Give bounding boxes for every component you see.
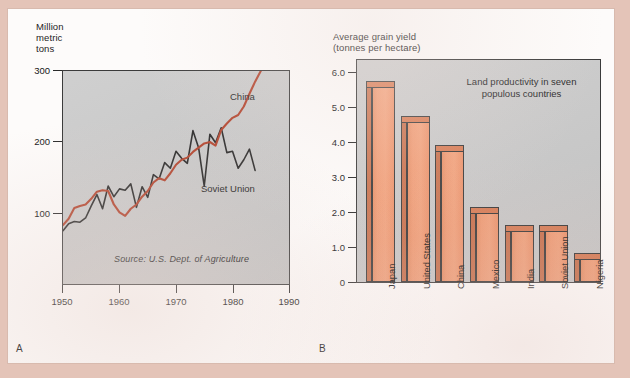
- panel-a-xtick-1950: 1950: [42, 296, 82, 307]
- panel-a-xtick-mark: [176, 285, 177, 293]
- panel-a-xtick-1970: 1970: [156, 296, 196, 307]
- panel-b-ytick-5: 5.0: [315, 102, 345, 113]
- category-label-mexico: Mexico: [491, 260, 501, 289]
- panel-b-letter: B: [319, 343, 326, 354]
- panel-a-ytick-200: 200: [16, 136, 50, 147]
- panel-a-ytick-mark: [53, 70, 62, 71]
- series-label-soviet-union: Soviet Union: [201, 183, 255, 194]
- panel-a-xtick-1990: 1990: [269, 296, 309, 307]
- category-label-china: China: [456, 265, 466, 289]
- panel-b-ytick-mark: [348, 107, 356, 108]
- panel-a-ytick-100: 100: [16, 208, 50, 219]
- panel-b-ytick-2: 2.0: [315, 207, 345, 218]
- panel-b-ytick-mark: [348, 72, 356, 73]
- panel-a-xtick-mark: [62, 285, 63, 293]
- panel-a-xtick-mark: [119, 285, 120, 293]
- panel-b-axis-title: Average grain yield (tonnes per hectare): [333, 31, 421, 53]
- category-label-nigeria: Nigeria: [595, 260, 605, 289]
- series-label-china: China: [230, 91, 255, 102]
- panel-b-ytick-mark: [348, 177, 356, 178]
- panel-a-plot-area: China Soviet Union Source: U.S. Dept. of…: [62, 70, 290, 285]
- panel-a-ytick-300: 300: [16, 65, 50, 76]
- panel-b-ytick-mark: [348, 142, 356, 143]
- panel-b-bar-chart: Average grain yield (tonnes per hectare)…: [311, 9, 614, 363]
- panel-a-xtick-mark: [233, 285, 234, 293]
- panel-b-ytick-1: 1.0: [315, 242, 345, 253]
- panel-b-ytick-3: 3.0: [315, 172, 345, 183]
- panel-a-xtick-1960: 1960: [99, 296, 139, 307]
- category-label-united-states: United States: [422, 233, 432, 289]
- panel-b-ytick-6: 6.0: [315, 67, 345, 78]
- bar-japan[interactable]: [372, 87, 395, 282]
- panel-a-letter: A: [16, 343, 23, 354]
- panel-a-xtick-1980: 1980: [213, 296, 253, 307]
- panel-a-ytick-mark: [53, 213, 62, 214]
- panel-b-ytick-mark: [348, 282, 356, 283]
- panel-b-ytick-4: 4.0: [315, 137, 345, 148]
- panel-a-xtick-mark: [289, 285, 290, 293]
- figure-page: Million metric tons 300 200 100 China So…: [8, 9, 614, 363]
- panel-a-axis-title: Million metric tons: [36, 21, 64, 55]
- figure-root: Million metric tons 300 200 100 China So…: [0, 0, 630, 378]
- panel-a-source-note: Source: U.S. Dept. of Agriculture: [114, 254, 249, 264]
- category-label-india: India: [526, 269, 536, 289]
- panel-a-series-svg: [63, 71, 289, 284]
- panel-b-ytick-mark: [348, 212, 356, 213]
- bar-china[interactable]: [441, 151, 464, 282]
- category-label-soviet-union: Soviet Union: [560, 236, 570, 289]
- category-label-japan: Japan: [387, 264, 397, 289]
- panel-a-line-chart: Million metric tons 300 200 100 China So…: [8, 9, 311, 363]
- panel-b-ytick-0: 0: [315, 277, 345, 288]
- panel-b-ytick-mark: [348, 247, 356, 248]
- panel-a-ytick-mark: [53, 141, 62, 142]
